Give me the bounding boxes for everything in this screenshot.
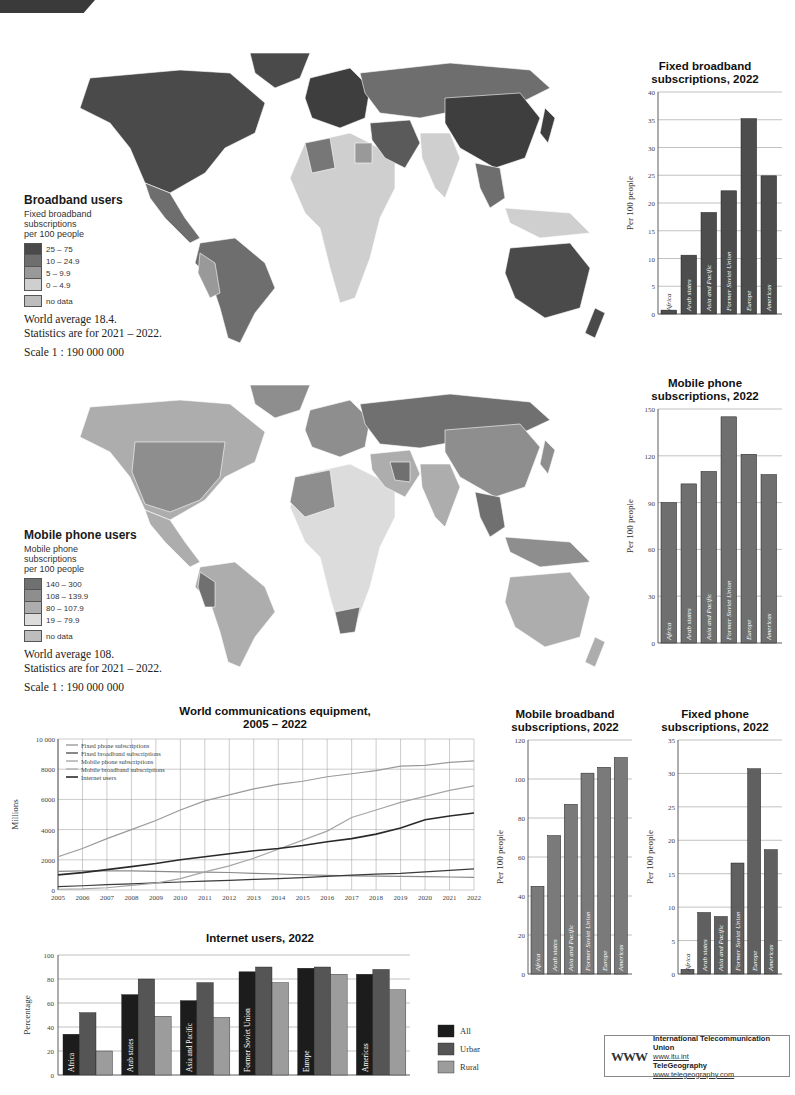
svg-text:Former Soviet Union: Former Soviet Union: [734, 911, 742, 972]
legend-label: 108 – 139.9: [46, 592, 88, 601]
line-fixed-broadband-subscriptions: [58, 869, 474, 887]
svg-text:2019: 2019: [394, 894, 409, 902]
broadband-legend-subtitle-1: Fixed broadband: [24, 209, 174, 219]
svg-text:Europe: Europe: [751, 951, 759, 972]
svg-text:2020: 2020: [418, 894, 433, 902]
legend-swatch: [24, 279, 42, 291]
svg-text:2005: 2005: [51, 894, 66, 902]
svg-text:0: 0: [672, 971, 676, 979]
legend-label: 140 – 300: [46, 580, 82, 589]
legend-label: 25 – 75: [46, 245, 73, 254]
svg-text:Africa: Africa: [67, 1052, 76, 1072]
chart-title: Fixed phonesubscriptions, 2022: [640, 708, 790, 734]
bar-africa-urban: [80, 1013, 97, 1075]
svg-text:2021: 2021: [443, 894, 458, 902]
svg-text:2012: 2012: [222, 894, 237, 902]
svg-text:0: 0: [52, 887, 56, 895]
mobile-scale: Scale 1 : 190 000 000: [24, 680, 174, 694]
credit-org-telegeography: TeleGeography: [653, 1061, 783, 1070]
svg-text:Rural: Rural: [460, 1062, 480, 1072]
legend-label: 10 – 24.9: [46, 257, 79, 266]
svg-text:100: 100: [44, 952, 55, 960]
svg-text:Arab states: Arab states: [685, 608, 693, 641]
broadband-legend-subtitle-3: per 100 people: [24, 229, 174, 239]
svg-text:25: 25: [668, 804, 676, 812]
svg-text:Europe: Europe: [745, 620, 753, 641]
svg-text:Africa: Africa: [684, 953, 692, 972]
mobile-world-average: World average 108.: [24, 647, 174, 661]
chart-title: Fixed broadbandsubscriptions, 2022: [620, 60, 790, 86]
svg-text:Europe: Europe: [302, 1050, 311, 1072]
bar-former-soviet-union-rural: [272, 983, 289, 1075]
bar-asia-and-pacific-rural: [213, 1017, 230, 1075]
broadband-legend-scale: 25 – 7510 – 24.95 – 9.90 – 4.9: [24, 243, 174, 291]
svg-text:100: 100: [515, 776, 526, 784]
legend-row: 140 – 300: [24, 578, 174, 590]
svg-text:Mobile broadband subscriptions: Mobile broadband subscriptions: [81, 766, 165, 773]
svg-text:8000: 8000: [41, 766, 56, 774]
mobile-legend-nodata: no data: [24, 630, 174, 642]
legend-swatch: [24, 267, 42, 279]
line-legend: Fixed phone subscriptionsFixed broadband…: [66, 742, 165, 781]
bar-americas-urban: [373, 969, 390, 1075]
bar-former-soviet-union-urban: [256, 967, 273, 1075]
svg-text:Asia and Pacific: Asia and Pacific: [185, 1022, 194, 1072]
svg-text:Mobile phone subscriptions: Mobile phone subscriptions: [81, 758, 154, 765]
svg-text:15: 15: [648, 228, 656, 236]
svg-text:0: 0: [652, 640, 656, 648]
svg-text:2008: 2008: [124, 894, 139, 902]
legend-swatch: [24, 243, 42, 255]
broadband-world-average: World average 18.4.: [24, 312, 174, 326]
svg-text:20: 20: [648, 200, 656, 208]
svg-text:Americas: Americas: [361, 1043, 370, 1072]
svg-text:10: 10: [648, 256, 656, 264]
svg-text:40: 40: [518, 893, 526, 901]
svg-text:Asia and Pacific: Asia and Pacific: [705, 264, 713, 312]
svg-text:Africa: Africa: [534, 953, 542, 972]
legend-label: 80 – 107.9: [46, 604, 84, 613]
nodata-swatch: [24, 295, 42, 307]
svg-text:Europe: Europe: [745, 291, 753, 312]
svg-text:Americas: Americas: [767, 944, 775, 972]
svg-text:Asia and Pacific: Asia and Pacific: [717, 924, 725, 972]
svg-text:Europe: Europe: [601, 951, 609, 972]
legend-row: 80 – 107.9: [24, 602, 174, 614]
chart-title: Mobile phonesubscriptions, 2022: [620, 377, 790, 403]
svg-text:10 000: 10 000: [36, 736, 56, 744]
svg-text:2014: 2014: [271, 894, 286, 902]
svg-text:2022: 2022: [467, 894, 482, 902]
mobile-legend-subtitle-2: subscriptions: [24, 554, 174, 564]
bar-europe: [748, 769, 761, 974]
credit-org-itu: International Telecommunication Union: [653, 1034, 783, 1052]
line-internet-users: [58, 813, 474, 875]
chart-title: World communications equipment,2005 – 20…: [0, 705, 490, 731]
svg-text:Per 100 people: Per 100 people: [625, 176, 635, 230]
svg-text:60: 60: [648, 546, 656, 554]
svg-text:Americas: Americas: [765, 284, 773, 312]
svg-text:Urban: Urban: [460, 1044, 480, 1054]
svg-text:0: 0: [652, 311, 656, 319]
credits-box: WWW International Telecommunication Unio…: [604, 1035, 790, 1077]
bar-asia-and-pacific-urban: [197, 983, 214, 1075]
svg-text:Per 100 people: Per 100 people: [625, 499, 635, 553]
svg-text:60: 60: [518, 854, 526, 862]
svg-text:Former Soviet Union: Former Soviet Union: [725, 251, 733, 312]
legend-swatch: [24, 590, 42, 602]
chart-title: Internet users, 2022: [0, 932, 480, 945]
legend-row: 10 – 24.9: [24, 255, 174, 267]
mobile-legend-subtitle-1: Mobile phone: [24, 544, 174, 554]
credit-link-itu[interactable]: www.itu.int: [653, 1052, 689, 1061]
mobile-legend-title: Mobile phone users: [24, 528, 174, 542]
svg-text:Asia and Pacific: Asia and Pacific: [705, 593, 713, 641]
svg-text:10: 10: [668, 904, 676, 912]
svg-text:Former Soviet Union: Former Soviet Union: [243, 1008, 252, 1072]
chart-mobile-broadband: Mobile broadbandsubscriptions, 202202040…: [490, 708, 640, 990]
broadband-legend-nodata: no data: [24, 295, 174, 307]
credit-link-telegeography[interactable]: www.telegeography.com: [653, 1070, 734, 1079]
bar-americas: [614, 758, 627, 974]
svg-text:Fixed broadband subscriptions: Fixed broadband subscriptions: [81, 750, 161, 757]
svg-text:Americas: Americas: [617, 944, 625, 972]
svg-text:4000: 4000: [41, 827, 56, 835]
svg-text:80: 80: [47, 976, 55, 984]
mobile-stats-note: Statistics are for 2021 – 2022.: [24, 661, 174, 675]
